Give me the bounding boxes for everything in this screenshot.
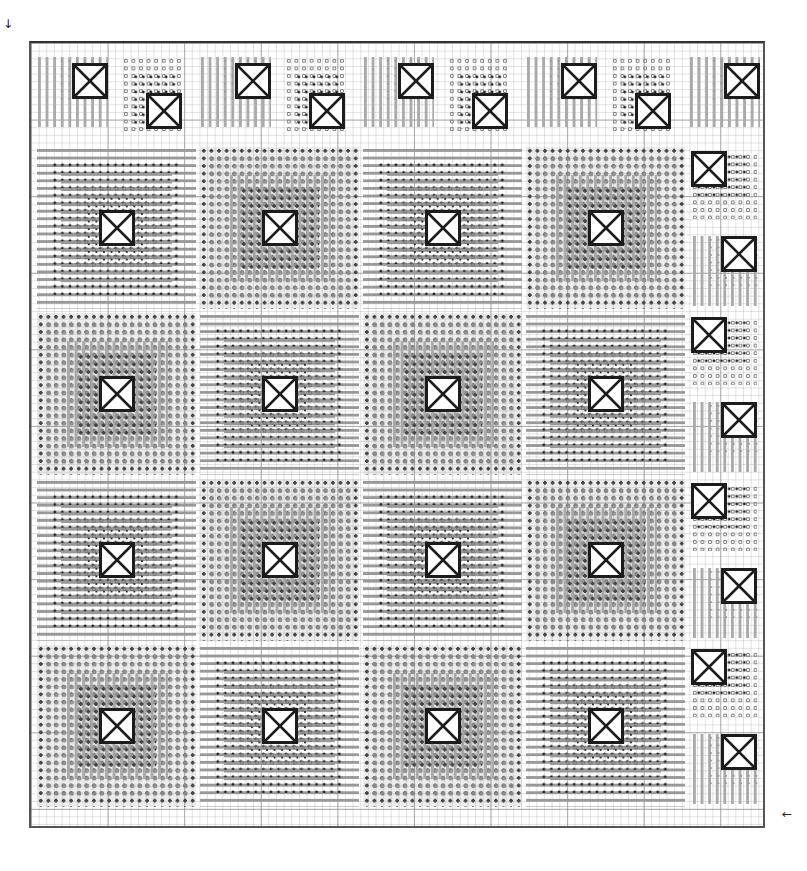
top-border-motif <box>688 51 764 139</box>
pattern-block-light <box>526 313 685 475</box>
center-boxed-x-icon <box>588 210 624 246</box>
center-boxed-x-icon <box>425 210 461 246</box>
top-border-boxed-x-icon <box>398 63 434 99</box>
right-border-boxed-x-icon <box>691 649 727 685</box>
right-border-motif <box>691 230 763 310</box>
center-boxed-x-icon <box>99 210 135 246</box>
bottom-right-arrow-icon: ← <box>782 808 792 820</box>
pattern-block-light <box>37 147 196 309</box>
right-border-motif <box>691 562 763 642</box>
right-border-motif <box>691 479 763 559</box>
center-boxed-x-icon <box>588 708 624 744</box>
pattern-block-light <box>363 147 522 309</box>
pattern-block-light <box>200 313 359 475</box>
top-border-motif <box>118 51 194 139</box>
top-border-boxed-x-icon <box>561 63 597 99</box>
pattern-block-dark <box>200 147 359 309</box>
right-border-motif <box>691 728 763 808</box>
right-border-boxed-x-icon <box>721 734 757 770</box>
right-border-boxed-x-icon <box>691 151 727 187</box>
right-border-motif <box>691 645 763 725</box>
pattern-block-dark <box>200 479 359 641</box>
pattern-block-light <box>363 479 522 641</box>
top-border-boxed-x-icon <box>72 63 108 99</box>
pattern-block-light <box>200 645 359 807</box>
top-border-boxed-x-icon <box>146 93 182 129</box>
stitch-chart-grid <box>29 41 765 828</box>
right-border-motif <box>691 147 763 227</box>
pattern-block-dark <box>363 313 522 475</box>
pattern-block-dark <box>37 645 196 807</box>
top-border-boxed-x-icon <box>472 93 508 129</box>
right-border-motif <box>691 313 763 393</box>
top-border-motif <box>525 51 601 139</box>
right-border-boxed-x-icon <box>691 483 727 519</box>
right-border-boxed-x-icon <box>721 402 757 438</box>
top-border-motif <box>607 51 683 139</box>
top-border-motif <box>281 51 357 139</box>
top-border-motif <box>362 51 438 139</box>
pattern-block-dark <box>37 313 196 475</box>
top-border-motif <box>199 51 275 139</box>
center-boxed-x-icon <box>425 708 461 744</box>
pattern-block-dark <box>526 147 685 309</box>
center-boxed-x-icon <box>262 210 298 246</box>
center-boxed-x-icon <box>99 376 135 412</box>
right-border-boxed-x-icon <box>721 568 757 604</box>
top-border-motif <box>36 51 112 139</box>
right-border-motif <box>691 396 763 476</box>
top-border-boxed-x-icon <box>309 93 345 129</box>
center-boxed-x-icon <box>262 542 298 578</box>
pattern-block-dark <box>363 645 522 807</box>
top-border-boxed-x-icon <box>235 63 271 99</box>
center-boxed-x-icon <box>262 376 298 412</box>
right-border-boxed-x-icon <box>691 317 727 353</box>
top-border-boxed-x-icon <box>635 93 671 129</box>
right-border-boxed-x-icon <box>721 236 757 272</box>
center-boxed-x-icon <box>99 708 135 744</box>
pattern-block-light <box>526 645 685 807</box>
pattern-block-dark <box>526 479 685 641</box>
center-boxed-x-icon <box>99 542 135 578</box>
top-border-motif <box>444 51 520 139</box>
center-boxed-x-icon <box>588 376 624 412</box>
pattern-block-light <box>37 479 196 641</box>
top-left-arrow-icon: ↓ <box>3 18 13 30</box>
center-boxed-x-icon <box>425 542 461 578</box>
top-border-boxed-x-icon <box>724 63 760 99</box>
center-boxed-x-icon <box>425 376 461 412</box>
center-boxed-x-icon <box>262 708 298 744</box>
center-boxed-x-icon <box>588 542 624 578</box>
